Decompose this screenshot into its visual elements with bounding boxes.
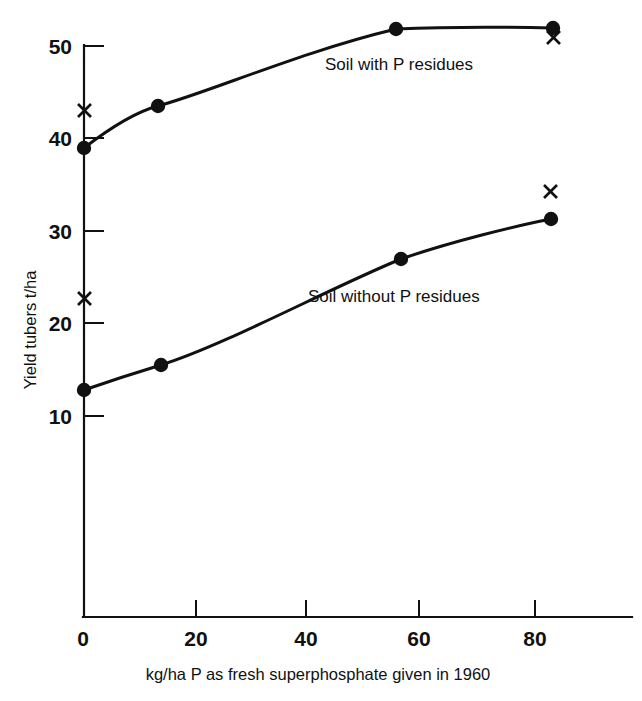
- data-point-without-p-1: [154, 358, 168, 372]
- x-tick-label-60: 60: [407, 627, 430, 650]
- series-label-soil-without-p-residues: Soil without P residues: [308, 287, 480, 306]
- x-tick-label-80: 80: [523, 627, 546, 650]
- data-point-with-p-0: [77, 141, 91, 155]
- data-point-with-p-2: [389, 22, 403, 36]
- series-label-soil-with-p-residues: Soil with P residues: [325, 55, 473, 74]
- y-tick-label-50: 50: [49, 35, 72, 58]
- data-point-without-p-0: [77, 383, 91, 397]
- x-tick-label-20: 20: [184, 627, 207, 650]
- x-tick-label-0: 0: [77, 627, 89, 650]
- cross-marker-without-p-at-83: [544, 185, 557, 198]
- data-point-without-p-2: [394, 252, 408, 266]
- line-chart-svg: 50 40 30 20 10 0 20 40 60 80 kg/ha P as …: [0, 0, 642, 701]
- data-point-without-p-3: [544, 212, 558, 226]
- x-tick-label-40: 40: [294, 627, 317, 650]
- y-tick-label-40: 40: [49, 127, 72, 150]
- y-axis-title: Yield tubers t/ha: [21, 270, 39, 389]
- x-axis-title: kg/ha P as fresh superphosphate given in…: [146, 665, 491, 683]
- data-point-with-p-1: [151, 99, 165, 113]
- curve-soil-with-p-residues: [84, 27, 553, 148]
- y-tick-label-30: 30: [49, 220, 72, 243]
- y-tick-label-20: 20: [49, 312, 72, 335]
- y-tick-label-10: 10: [49, 405, 72, 428]
- chart-figure: 50 40 30 20 10 0 20 40 60 80 kg/ha P as …: [0, 0, 642, 701]
